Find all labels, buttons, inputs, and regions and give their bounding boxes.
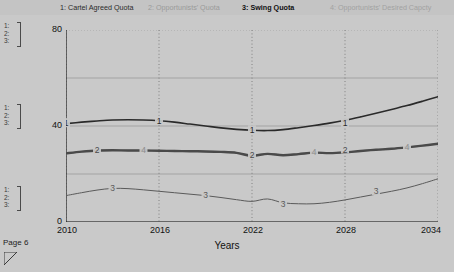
page-label: Page 6 (3, 238, 28, 247)
series-2-inline-label: 2 (95, 145, 100, 155)
resize-corner-icon[interactable] (4, 252, 19, 267)
series-1-inline-label: 1 (157, 116, 162, 126)
x-tick-label-2016: 2016 (150, 225, 170, 235)
series-3-inline-label: 3 (281, 199, 286, 209)
scale-bracket-icon (17, 186, 21, 211)
series-2-inline-label: 2 (250, 150, 255, 160)
series-4-inline-label: 4 (405, 142, 410, 152)
plot-area: 11112223333444 (66, 30, 438, 222)
scale-gutter-group-top: 1: 2: 3: (4, 22, 30, 45)
legend-item-opportunists-quota[interactable]: 2: Opportunists' Quota (148, 2, 220, 13)
line-chart-svg: 11112223333444 (66, 30, 438, 222)
series-1-inline-label: 1 (343, 118, 348, 128)
x-axis-title: Years (0, 240, 454, 251)
legend-item-swing-quota[interactable]: 3: Swing Quota (242, 2, 294, 13)
x-tick-label-2034: 2034 (421, 225, 441, 235)
x-tick-label-2028: 2028 (336, 225, 356, 235)
y-tick-label-40: 40 (40, 120, 62, 130)
series-4-inline-label: 4 (141, 145, 146, 155)
y-tick-label-80: 80 (40, 24, 62, 34)
scale-bracket-icon (17, 22, 21, 47)
series-1-inline-label: 1 (250, 125, 255, 135)
series-1-inline-label: 1 (66, 118, 69, 128)
legend-item-cartel-agreed-quota[interactable]: 1: Cartel Agreed Quota (60, 2, 134, 13)
scale-gutter-group-bottom: 1: 2: 3: (4, 186, 30, 209)
scale-bracket-icon (17, 104, 21, 129)
series-3-inline-label: 3 (374, 186, 379, 196)
x-tick-label-2022: 2022 (243, 225, 263, 235)
x-tick-label-2010: 2010 (57, 225, 77, 235)
chart-page: 1: Cartel Agreed Quota 2: Opportunists' … (0, 0, 454, 272)
series-2-inline-label: 2 (343, 145, 348, 155)
chart-legend: 1: Cartel Agreed Quota 2: Opportunists' … (0, 0, 454, 15)
scale-gutter-group-middle: 1: 2: 3: (4, 104, 30, 127)
series-3-inline-label: 3 (203, 190, 208, 200)
legend-item-opportunists-desired-capacity[interactable]: 4: Opportunists' Desired Capcty (330, 2, 431, 13)
series-4-inline-label: 4 (312, 147, 317, 157)
series-3-inline-label: 3 (110, 183, 115, 193)
